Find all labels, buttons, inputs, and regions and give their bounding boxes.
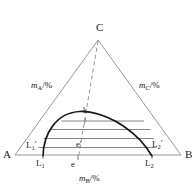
vertex-label-b: B bbox=[185, 149, 192, 160]
axis-label-left: mA/% bbox=[31, 81, 52, 91]
l2-prime-mark: ′ bbox=[161, 138, 163, 148]
axis-label-bottom: mB/% bbox=[79, 174, 100, 184]
axis-right-unit: /% bbox=[150, 80, 160, 90]
l1-prime-mark: ′ bbox=[35, 139, 37, 149]
vertex-label-c: C bbox=[96, 22, 103, 33]
vertex-label-a: A bbox=[3, 149, 11, 160]
l1-subscript: 1 bbox=[42, 162, 45, 169]
point-label-l2: L2 bbox=[145, 159, 154, 169]
point-label-e-prime: e′ bbox=[76, 140, 82, 149]
axis-label-right: mC/% bbox=[139, 81, 160, 91]
triangle-outline bbox=[15, 40, 181, 155]
point-label-k: k bbox=[83, 106, 87, 115]
point-label-e: e bbox=[71, 160, 75, 169]
l2-subscript: 2 bbox=[151, 162, 154, 169]
ternary-phase-diagram-figure: C A B mA/% mC/% mB/% L1′ L1 L2′ L2 e′ e … bbox=[0, 0, 196, 192]
axis-left-unit: /% bbox=[42, 80, 52, 90]
triangle-edge-left bbox=[15, 40, 98, 155]
binodal-dome-curve bbox=[43, 111, 152, 156]
tie-lines-group bbox=[39, 121, 157, 148]
baseline-ticks bbox=[43, 155, 152, 159]
axis-bottom-unit: /% bbox=[90, 173, 100, 183]
point-label-l2-prime: L2′ bbox=[152, 139, 163, 150]
triangle-edge-right bbox=[98, 40, 181, 155]
point-label-l1-prime: L1′ bbox=[26, 140, 37, 151]
point-label-l1: L1 bbox=[36, 159, 45, 169]
